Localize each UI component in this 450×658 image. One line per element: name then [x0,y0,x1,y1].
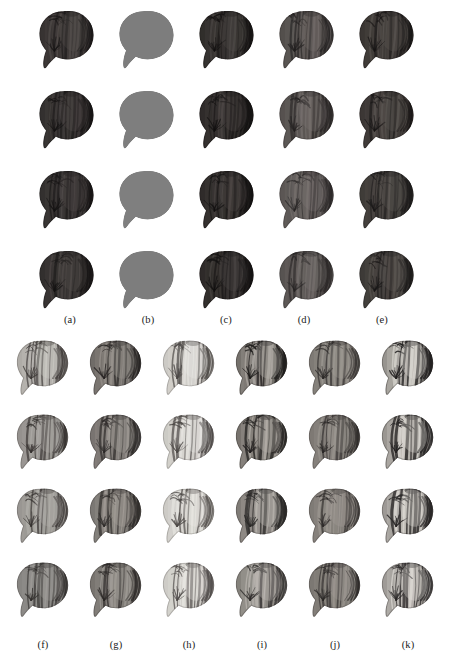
onion-image [30,82,104,156]
onion-image-cell [373,332,443,402]
onion-image [30,242,104,316]
onion-image [81,554,151,624]
onion-image-cell [81,332,151,402]
onion-image [373,406,443,476]
onion-image-cell [30,2,104,76]
subfigure-label-h: (h) [169,639,209,651]
subfigure-label-f: (f) [23,639,63,651]
onion-image-cell [300,480,370,550]
onion-image [190,242,264,316]
onion-image-cell [190,2,264,76]
onion-image-cell [270,82,344,156]
onion-image [30,2,104,76]
onion-image-cell [350,2,424,76]
onion-image [300,480,370,550]
onion-image [8,406,78,476]
onion-image [270,242,344,316]
subfigure-label-d: (d) [284,314,324,326]
onion-image-cell [373,406,443,476]
onion-image-cell [350,242,424,316]
onion-image [373,332,443,402]
onion-image-cell [227,332,297,402]
onion-image [81,480,151,550]
figure-panel-bottom: (f)(g)(h)(i)(j)(k) [0,332,450,658]
subfigure-label-i: (i) [242,639,282,651]
onion-image-cell [110,242,184,316]
onion-image [270,2,344,76]
onion-image-cell [30,242,104,316]
onion-image-cell [30,82,104,156]
figure-panel-top: (a)(b)(c)(d)(e) [0,0,450,332]
subfigure-label-c: (c) [206,314,246,326]
onion-image [350,162,424,236]
onion-image [154,554,224,624]
onion-image [190,82,264,156]
onion-image [110,82,184,156]
onion-image-cell [300,332,370,402]
onion-image [227,480,297,550]
onion-image-cell [227,554,297,624]
onion-image-cell [270,242,344,316]
subfigure-label-g: (g) [96,639,136,651]
onion-image-cell [8,480,78,550]
onion-image-cell [350,82,424,156]
onion-image-cell [350,162,424,236]
onion-image-cell [110,82,184,156]
onion-image [81,406,151,476]
onion-image-cell [81,554,151,624]
onion-image [227,332,297,402]
onion-image-cell [270,2,344,76]
onion-image-cell [154,554,224,624]
subfigure-label-j: (j) [315,639,355,651]
onion-image [227,406,297,476]
onion-image [373,554,443,624]
onion-image-cell [8,554,78,624]
onion-image-cell [30,162,104,236]
onion-image-cell [190,242,264,316]
onion-image-cell [8,332,78,402]
onion-image-cell [110,2,184,76]
onion-image-cell [373,554,443,624]
onion-image-cell [373,480,443,550]
subfigure-label-b: (b) [128,314,168,326]
onion-image [190,162,264,236]
onion-image [300,554,370,624]
onion-image-cell [270,162,344,236]
onion-image [270,82,344,156]
onion-image [8,332,78,402]
onion-image [190,2,264,76]
onion-image-cell [81,406,151,476]
onion-image [227,554,297,624]
onion-image-cell [81,480,151,550]
onion-image-cell [227,480,297,550]
onion-image-cell [154,332,224,402]
onion-image [350,2,424,76]
onion-image [373,480,443,550]
subfigure-label-a: (a) [50,314,90,326]
onion-image-cell [154,480,224,550]
onion-image [110,162,184,236]
onion-image [350,82,424,156]
onion-image [30,162,104,236]
onion-image [300,332,370,402]
onion-image [270,162,344,236]
onion-image [8,554,78,624]
onion-image [350,242,424,316]
onion-image-cell [8,406,78,476]
onion-image-cell [227,406,297,476]
onion-image [8,480,78,550]
onion-image [81,332,151,402]
subfigure-label-k: (k) [388,639,428,651]
onion-image-cell [190,162,264,236]
onion-image [154,406,224,476]
figure-root: (a)(b)(c)(d)(e) (f)(g)(h)(i)(j)(k) [0,0,450,658]
subfigure-label-e: (e) [362,314,402,326]
onion-image-cell [300,406,370,476]
onion-image [154,332,224,402]
onion-image [300,406,370,476]
onion-image-cell [190,82,264,156]
onion-image [110,242,184,316]
onion-image-cell [110,162,184,236]
onion-image [110,2,184,76]
onion-image-cell [154,406,224,476]
